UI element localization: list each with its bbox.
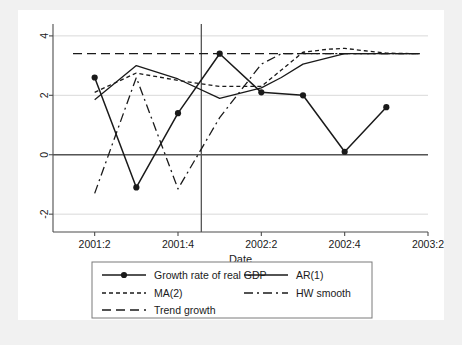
series-marker [92, 74, 98, 80]
y-tick-label: 2 [38, 92, 50, 98]
series-marker [383, 104, 389, 110]
series-marker [300, 92, 306, 98]
y-tick-label: 0 [38, 152, 50, 158]
legend-label: AR(1) [296, 269, 323, 281]
x-tick-label: 2002:2 [245, 238, 277, 250]
chart-canvas: 2001:22001:42002:22002:42003:2-2024DateG… [0, 0, 462, 345]
series-marker [342, 149, 348, 155]
x-tick-label: 2001:4 [162, 238, 194, 250]
series-marker [133, 184, 139, 190]
x-tick-label: 2002:4 [329, 238, 361, 250]
y-tick-label: -2 [38, 209, 50, 218]
series-marker [175, 110, 181, 116]
legend-label: MA(2) [154, 287, 183, 299]
y-tick-label: 4 [38, 33, 50, 39]
chart-figure: 2001:22001:42002:22002:42003:2-2024DateG… [0, 0, 462, 345]
legend: Growth rate of real GDPAR(1)MA(2)HW smoo… [92, 262, 372, 318]
legend-swatch-marker [121, 272, 127, 278]
x-tick-label: 2003:2 [412, 238, 444, 250]
plot-area-background [53, 24, 428, 232]
legend-label: Trend growth [154, 304, 216, 316]
series-marker [258, 89, 264, 95]
legend-label: HW smooth [296, 287, 351, 299]
x-tick-label: 2001:2 [79, 238, 111, 250]
